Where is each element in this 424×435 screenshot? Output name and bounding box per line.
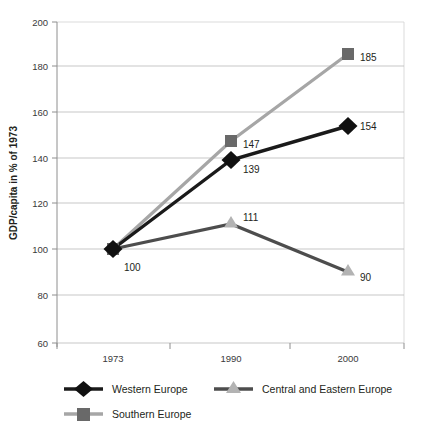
x-tick-label-1990: 1990 [220, 353, 241, 364]
diamond-marker-2000 [339, 117, 358, 135]
square-marker-2000 [342, 48, 354, 60]
gridlines [57, 66, 404, 343]
chart-legend: Western Europe Central and Eastern Europ… [64, 381, 392, 421]
chart-canvas: 200 180 160 140 120 100 80 60 GDP/capita… [0, 0, 424, 435]
y-tick-label-180: 180 [32, 61, 48, 72]
square-marker-1990 [225, 135, 237, 147]
data-labels: 100 147 139 111 185 154 90 [124, 52, 377, 283]
y-tick-label-120: 120 [32, 198, 48, 209]
y-tick-labels: 200 180 160 140 120 100 80 60 [32, 17, 48, 349]
x-tick-label-1973: 1973 [102, 353, 123, 364]
y-tick-label-60: 60 [37, 338, 48, 349]
y-tick-label-140: 140 [32, 153, 48, 164]
legend-label-western-europe: Western Europe [112, 383, 188, 395]
central-eastern-europe-polyline [113, 224, 348, 272]
data-label-2000-southern: 185 [360, 52, 377, 63]
data-label-2000-central-eastern: 90 [360, 272, 372, 283]
data-label-1990-central-eastern: 111 [243, 212, 259, 223]
x-tickmarks [57, 343, 404, 349]
legend-item-western-europe[interactable]: Western Europe [64, 381, 188, 397]
y-tick-label-100: 100 [32, 244, 48, 255]
data-label-1973-shared: 100 [124, 262, 141, 273]
x-tick-label-2000: 2000 [337, 353, 358, 364]
legend-triangle-icon [226, 381, 241, 393]
legend-label-central-eastern-europe: Central and Eastern Europe [262, 383, 392, 395]
gdp-per-capita-line-chart: 200 180 160 140 120 100 80 60 GDP/capita… [0, 0, 424, 435]
legend-item-southern-europe[interactable]: Southern Europe [64, 408, 192, 421]
legend-diamond-icon [74, 381, 93, 397]
x-tick-labels: 1973 1990 2000 [102, 353, 358, 364]
series-line-central-eastern-europe [113, 224, 348, 272]
data-label-2000-western: 154 [360, 121, 377, 132]
legend-square-icon [77, 408, 90, 421]
y-tickmarks [52, 22, 57, 343]
y-tick-label-160: 160 [32, 107, 48, 118]
y-axis-title: GDP/capita in % of 1973 [8, 126, 19, 240]
y-tick-label-80: 80 [37, 290, 48, 301]
y-tick-label-200: 200 [32, 17, 48, 28]
legend-item-central-eastern-europe[interactable]: Central and Eastern Europe [214, 381, 392, 395]
legend-label-southern-europe: Southern Europe [112, 408, 192, 420]
data-label-1990-western: 139 [243, 164, 260, 175]
data-label-1990-southern: 147 [243, 139, 260, 150]
triangle-marker-1990 [224, 216, 238, 228]
